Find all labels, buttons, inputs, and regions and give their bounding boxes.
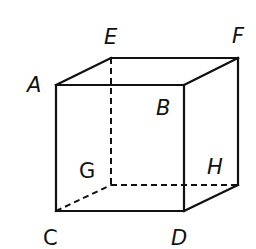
label-E: E bbox=[104, 25, 118, 49]
edge-AE bbox=[56, 58, 111, 85]
edge-DH bbox=[184, 185, 238, 211]
label-A: A bbox=[25, 73, 41, 97]
label-B: B bbox=[156, 96, 170, 120]
edge-CG bbox=[56, 185, 111, 211]
label-H: H bbox=[207, 155, 223, 179]
cube-diagram: E F A B G H C D bbox=[0, 0, 256, 249]
visible-edges bbox=[56, 58, 238, 211]
edge-BF bbox=[184, 58, 238, 85]
hidden-edges bbox=[56, 58, 238, 211]
label-G: G bbox=[79, 159, 95, 183]
label-D: D bbox=[171, 226, 187, 249]
label-F: F bbox=[232, 24, 245, 48]
label-C: C bbox=[43, 226, 58, 249]
